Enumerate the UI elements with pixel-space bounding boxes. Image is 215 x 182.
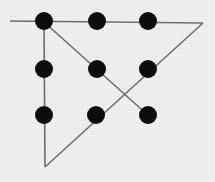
dot-bottom-left — [35, 106, 53, 124]
dot-middle-left — [35, 60, 53, 78]
dot-bottom-center — [87, 106, 105, 124]
dot-top-right — [139, 12, 157, 30]
line-segments-group — [10, 21, 203, 167]
dot-and-line-diagram — [0, 0, 215, 182]
dot-bottom-right — [139, 106, 157, 124]
dot-top-center — [88, 12, 106, 30]
dot-middle-right — [139, 60, 157, 78]
dot-middle-center — [88, 60, 106, 78]
figure-canvas — [0, 0, 215, 182]
line-vertical-left-edge — [44, 21, 45, 167]
dot-top-left — [35, 12, 53, 30]
